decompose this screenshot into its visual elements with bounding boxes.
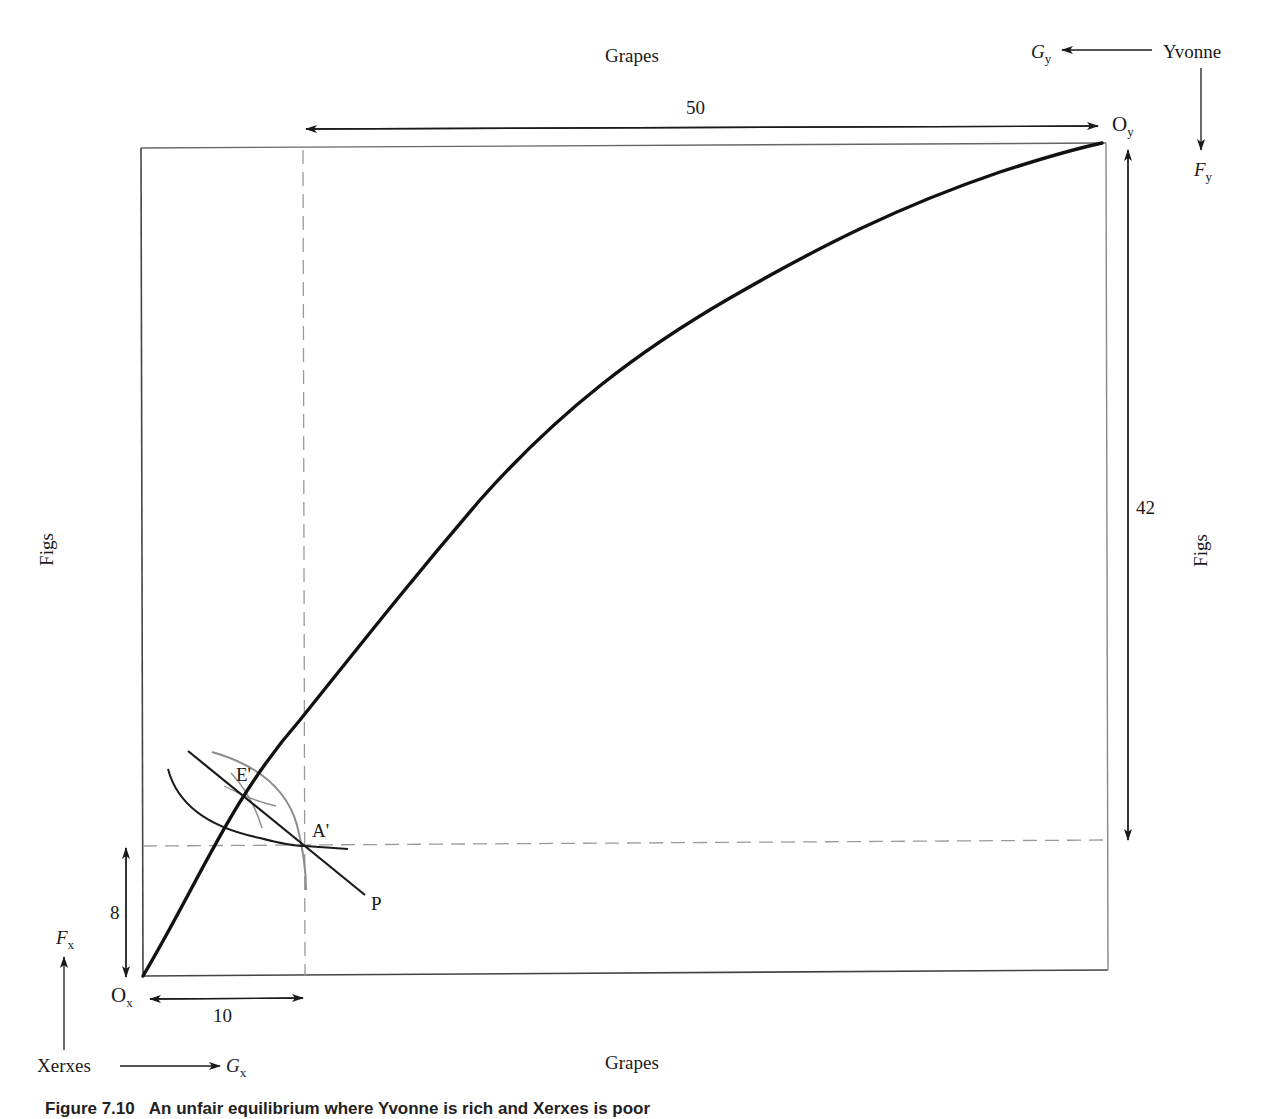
xerxes-label: Xerxes: [37, 1056, 91, 1075]
gy-label: Gy: [1031, 42, 1051, 61]
point-e-prime-label: E': [236, 765, 251, 784]
figs-8-label: 8: [110, 903, 120, 922]
top-grapes-label: Grapes: [605, 46, 659, 65]
fy-main: F: [1194, 159, 1206, 180]
origin-y-label: Oy: [1112, 114, 1134, 135]
right-figs-label: Figs: [1191, 534, 1210, 567]
bottom-grapes-label: Grapes: [605, 1053, 659, 1072]
gx-label: Gx: [226, 1056, 246, 1075]
left-figs-label: Figs: [37, 533, 56, 566]
oy-main: O: [1112, 112, 1127, 136]
yvonne-label: Yvonne: [1163, 42, 1221, 61]
ox-sub: x: [126, 995, 133, 1010]
endowment-guides: [143, 150, 1106, 976]
caption-text: An unfair equilibrium where Yvonne is ri…: [149, 1099, 650, 1118]
contract-curve: [143, 143, 1102, 976]
edgeworth-box: [141, 143, 1108, 976]
fy-sub: y: [1206, 169, 1213, 184]
price-line-p-label: P: [371, 894, 382, 913]
gy-main: G: [1031, 41, 1045, 62]
height-42-label: 42: [1136, 498, 1155, 517]
origin-x-label: Ox: [111, 985, 133, 1006]
gx-main: G: [226, 1055, 240, 1076]
grapes-10-label: 10: [213, 1006, 232, 1025]
fx-sub: x: [68, 937, 75, 952]
caption-number: Figure 7.10: [45, 1099, 135, 1118]
fx-main: F: [56, 927, 68, 948]
gy-sub: y: [1045, 51, 1052, 66]
figure-caption: Figure 7.10An unfair equilibrium where Y…: [45, 1099, 650, 1119]
oy-sub: y: [1127, 124, 1134, 139]
point-a-prime-label: A': [312, 821, 329, 840]
ox-main: O: [111, 983, 126, 1007]
fx-label: Fx: [56, 928, 74, 947]
width-50-label: 50: [686, 98, 705, 117]
fy-label: Fy: [1194, 160, 1212, 179]
gx-sub: x: [240, 1065, 247, 1080]
dimension-arrows: [64, 50, 1201, 1066]
